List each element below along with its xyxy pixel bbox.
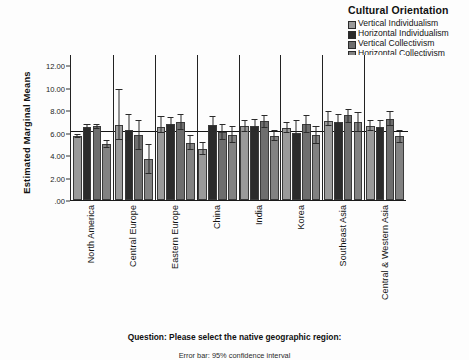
error-bar [274,130,275,141]
bar[interactable] [302,124,311,200]
x-axis-label: Eastern Europe [154,203,196,308]
error-bar [160,116,161,133]
bar[interactable] [376,127,385,200]
error-bar [87,124,88,130]
error-bar [296,120,297,144]
error-bar-note: Error bar: 95% confidence interval [0,351,469,360]
y-tick-label: 6.00 [50,129,65,138]
plot-area [70,55,406,201]
error-bar [138,120,139,151]
question-caption: Question: Please select the native geogr… [0,332,469,342]
bar[interactable] [386,119,395,200]
bar-slot [269,55,279,200]
legend: Cultural Orientation Vertical Individual… [348,4,468,59]
error-bar [399,130,400,143]
bar-slot [259,55,269,200]
bar-slot [156,55,166,200]
error-bar [254,119,255,132]
bar-slot [311,55,321,200]
error-bar [348,109,349,124]
error-bar [264,115,265,127]
bar[interactable] [218,132,227,200]
legend-swatch-icon [348,41,356,49]
x-axis-label: North America [70,203,112,308]
bar-slot [134,55,144,200]
bar-group-bars [156,55,195,200]
x-axis-label-text: Eastern Europe [170,205,180,269]
bar-slot [72,55,82,200]
bar-slot [102,55,112,200]
bar-group [364,55,406,200]
bar-group-bars [114,55,153,200]
error-bar [106,140,107,147]
bar-slot [385,55,395,200]
bar[interactable] [93,126,102,200]
error-bar [370,120,371,132]
error-bar [128,114,129,141]
y-tick-label: 8.00 [50,107,65,116]
bar-slot [176,55,186,200]
error-bar [222,124,223,141]
bar[interactable] [186,143,195,200]
error-bar [180,114,181,130]
error-bar [328,111,329,126]
error-bar [148,144,149,174]
x-axis-label-text: India [254,205,264,225]
bar[interactable] [198,149,207,200]
error-bar [316,126,317,143]
bar-group [113,55,155,200]
bar-group-bars [365,55,404,200]
bar-slot [186,55,196,200]
bar[interactable] [270,136,279,200]
bar-slot [198,55,208,200]
y-tick-label: 10.00 [46,84,65,93]
bar[interactable] [354,122,363,200]
x-axis-label-text: China [212,205,222,229]
bar-slot [353,55,363,200]
legend-swatch-icon [348,31,356,39]
bar[interactable] [176,122,185,200]
bar-slot [250,55,260,200]
bar-group [280,55,322,200]
y-tick-label: .00 [54,197,65,206]
bar[interactable] [344,115,353,200]
bar-slot [144,55,154,200]
error-bar [119,89,120,140]
bar[interactable] [260,121,269,200]
bar[interactable] [334,122,343,200]
bar-groups [71,55,406,200]
x-axis-label-text: Central Europe [128,205,138,267]
bar[interactable] [240,126,249,200]
bar[interactable] [312,135,321,200]
error-bar [380,120,381,133]
bar-group [71,55,113,200]
bar-slot [375,55,385,200]
x-axis-label-text: Korea [296,205,306,230]
error-bar [357,112,358,132]
x-axis-label: Central Europe [112,203,154,308]
bar-group-bars [240,55,279,200]
bar[interactable] [157,127,166,200]
bar-slot [227,55,237,200]
bar[interactable] [208,125,217,200]
bar-slot [114,55,124,200]
x-axis-label-text: Central & Western Asia [380,205,390,300]
x-axis-label-text: Southeast Asia [338,205,348,266]
bar[interactable] [395,136,404,200]
bar[interactable] [324,121,333,200]
bar[interactable] [228,135,237,200]
y-tick-label: 12.00 [46,62,65,71]
bar[interactable] [282,128,291,201]
bar-group [322,55,364,200]
bar-slot [395,55,405,200]
bar[interactable] [250,126,259,200]
bar[interactable] [83,127,92,200]
error-bar [170,117,171,132]
bar[interactable] [73,136,82,200]
bar[interactable] [102,144,111,200]
y-axis-ticks: .002.004.006.008.0010.0012.00 [0,55,70,201]
bar[interactable] [366,126,375,200]
bar-group [155,55,197,200]
bar-group-bars [324,55,363,200]
bar[interactable] [166,124,175,200]
